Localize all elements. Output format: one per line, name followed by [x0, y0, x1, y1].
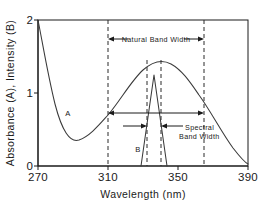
natural-band-width-head-left: [108, 36, 114, 41]
x-axis-title: Wavelength (nm): [100, 188, 186, 200]
x-tick-label-270: 270: [28, 171, 48, 183]
spectral-band-width-label-line2: Band Width: [179, 132, 220, 141]
natural-band-width-label: Natural Band Width: [122, 35, 191, 44]
y-tick-label-1: 1: [26, 87, 33, 99]
spectral-chart: 0 1 2 270 310 350 390 Wavelength (nm) Ab…: [0, 0, 266, 204]
x-tick-label-390: 390: [238, 171, 258, 183]
curve-b: [141, 75, 167, 166]
natural-band-width-lower-head-right: [198, 110, 204, 115]
curve-label-b: B: [135, 145, 140, 154]
x-tick-label-310: 310: [98, 171, 118, 183]
figure-container: 0 1 2 270 310 350 390 Wavelength (nm) Ab…: [0, 0, 266, 204]
spectral-band-width-label-line1: Spectral: [185, 123, 214, 132]
y-axis-title: Absorbance (A), Intensity (B): [4, 20, 16, 166]
x-tick-label-350: 350: [168, 171, 188, 183]
natural-band-width-head-right: [198, 36, 204, 41]
y-tick-label-2: 2: [26, 14, 33, 26]
curve-label-a: A: [65, 109, 71, 118]
